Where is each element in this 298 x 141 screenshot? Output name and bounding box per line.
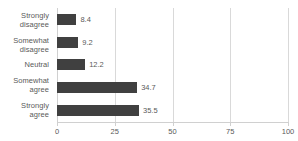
x-tick-100 (288, 122, 289, 126)
bar-value-label: 8.4 (80, 15, 90, 24)
x-tick-label-50: 50 (168, 127, 176, 137)
x-tick-75 (230, 122, 231, 126)
category-label-neutral: Neutral (24, 60, 53, 69)
bar-value-label: 9.2 (82, 38, 92, 47)
x-tick-50 (173, 122, 174, 126)
bar-strongly-agree (57, 105, 139, 116)
x-tick-label-25: 25 (111, 127, 119, 137)
bar-value-label: 35.5 (143, 106, 158, 115)
bar-somewhat-disagree (57, 37, 78, 48)
category-label-strongly-disagree: Strongly disagree (20, 11, 53, 29)
bar-row: 12.2 (57, 59, 288, 70)
bar-value-label: 12.2 (89, 60, 104, 69)
category-axis-labels: Strongly disagree Somewhat disagree Neut… (0, 8, 53, 122)
x-tick-25 (115, 122, 116, 126)
plot-area: 8.4 9.2 12.2 34.7 35.5 (57, 8, 288, 122)
bar-row: 8.4 (57, 14, 288, 25)
x-tick-0 (57, 122, 58, 126)
category-label-somewhat-disagree: Somewhat disagree (13, 36, 53, 54)
category-label-strongly-agree: Strongly agree (21, 101, 53, 119)
category-label-somewhat-agree: Somewhat agree (13, 76, 53, 94)
bar-chart: Strongly disagree Somewhat disagree Neut… (0, 0, 298, 141)
bar-strongly-disagree (57, 14, 76, 25)
gridline-100 (288, 8, 289, 122)
x-tick-label-0: 0 (55, 127, 59, 137)
bar-row: 34.7 (57, 82, 288, 93)
bar-row: 9.2 (57, 37, 288, 48)
x-axis-ticks (57, 122, 288, 126)
x-tick-label-100: 100 (282, 127, 295, 137)
bar-value-label: 34.7 (141, 83, 156, 92)
x-tick-label-75: 75 (226, 127, 234, 137)
bar-somewhat-agree (57, 82, 137, 93)
bar-neutral (57, 59, 85, 70)
bar-row: 35.5 (57, 105, 288, 116)
bar-series: 8.4 9.2 12.2 34.7 35.5 (57, 8, 288, 122)
x-axis-tick-labels: 0255075100 (57, 127, 288, 139)
